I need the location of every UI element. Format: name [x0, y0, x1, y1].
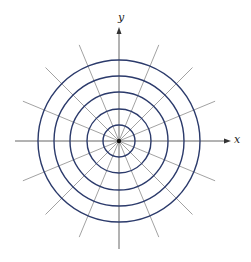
y-axis-label: y	[118, 11, 124, 24]
x-axis-label: x	[234, 133, 240, 146]
y-axis-arrow-icon	[117, 27, 122, 34]
polar-grid-diagram	[0, 0, 251, 262]
x-axis-arrow-icon	[224, 139, 231, 144]
origin-point	[117, 139, 121, 143]
